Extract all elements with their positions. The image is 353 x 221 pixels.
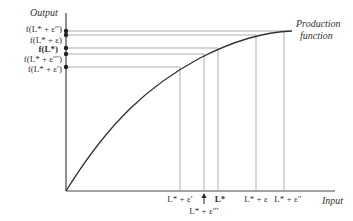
x-tick-label: L* + ε′′ <box>274 194 301 204</box>
point-icon <box>64 33 68 37</box>
x-tick-label: L* <box>215 194 226 204</box>
point-icon <box>64 52 68 56</box>
arrow-head-icon <box>202 193 207 198</box>
y-tick-label: f(L*) <box>39 44 59 54</box>
y-axis-label: Output <box>30 7 58 18</box>
point-icon <box>64 29 68 33</box>
production-function-diagram: Output Input Production function f(L* + … <box>0 0 353 221</box>
x-tick-label: L* + ε′ <box>167 194 192 204</box>
y-tick-label: f(L* + ε′) <box>28 64 62 74</box>
point-icon <box>64 46 68 50</box>
production-curve <box>66 31 292 191</box>
curve-label-line1: Production <box>295 18 341 29</box>
point-icon <box>64 65 68 69</box>
x-tick-label: L* + ε′′′ <box>189 206 218 216</box>
curve-label-line2: function <box>300 30 333 41</box>
y-tick-label: f(L* + ε′′) <box>26 24 62 34</box>
x-axis-label: Input <box>321 195 343 206</box>
y-tick-label: f(L* + ε′′′) <box>24 54 62 64</box>
x-tick-label: L* + ε <box>244 194 268 204</box>
